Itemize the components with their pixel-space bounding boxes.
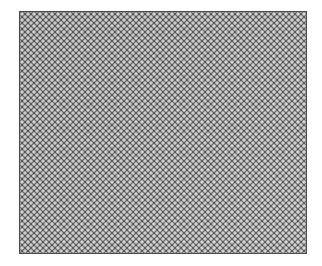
image-canvas [0,0,322,266]
panel-shading [19,11,307,254]
dotted-texture-panel [19,11,307,254]
